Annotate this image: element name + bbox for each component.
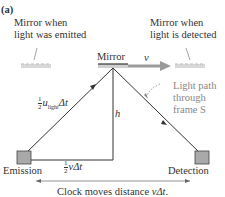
clock-distance-arrow bbox=[36, 179, 190, 183]
base-label: 12vΔt bbox=[64, 160, 82, 175]
mirror-emitted-label-line1: Mirror when bbox=[14, 17, 67, 28]
ghost-mirror-left bbox=[21, 64, 51, 68]
light-path-label-line2: through bbox=[173, 92, 206, 103]
pointer-left bbox=[34, 48, 37, 60]
mirror-label: Mirror bbox=[97, 51, 125, 62]
ghost-mirror-right bbox=[175, 64, 205, 68]
panel-label: (a) bbox=[1, 4, 13, 15]
emission-label: Emission bbox=[3, 165, 42, 176]
hypotenuse-label: 12ulightΔt bbox=[38, 96, 68, 113]
detection-label: Detection bbox=[168, 165, 209, 176]
light-path-label-line1: Light path bbox=[173, 80, 216, 91]
emission-box bbox=[17, 151, 31, 164]
mirror-detected-label-line1: Mirror when bbox=[150, 17, 203, 28]
mirror-detected-label-line2: light is detected bbox=[150, 29, 216, 40]
half-fraction: 12 bbox=[38, 96, 42, 111]
height-label: h bbox=[115, 108, 120, 119]
velocity-arrow bbox=[128, 61, 171, 71]
clock-caption: Clock moves distance vΔt. bbox=[57, 186, 168, 197]
mirror-emitted-label-line2: light was emitted bbox=[14, 29, 86, 40]
mirror bbox=[98, 64, 128, 68]
half-fraction: 12 bbox=[64, 160, 68, 175]
velocity-label: v bbox=[144, 52, 149, 63]
detection-box bbox=[195, 151, 209, 164]
pointer-right bbox=[186, 48, 190, 60]
light-path-label-line3: frame S bbox=[173, 104, 206, 115]
light-path-pointer bbox=[147, 84, 160, 96]
